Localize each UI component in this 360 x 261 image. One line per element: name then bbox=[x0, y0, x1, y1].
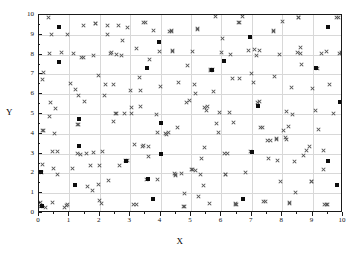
y-axis-label: Y bbox=[6, 107, 13, 117]
data-point-cross bbox=[132, 142, 137, 147]
data-point-cross bbox=[286, 124, 291, 129]
data-point-cross bbox=[327, 82, 332, 87]
data-point-cross bbox=[99, 201, 104, 206]
data-point-cross bbox=[114, 111, 119, 116]
x-axis-tick-label: 9 bbox=[310, 216, 314, 224]
data-point-cross bbox=[103, 82, 108, 87]
data-point-cross bbox=[155, 177, 160, 182]
data-point-cross bbox=[154, 112, 159, 117]
data-point-cross bbox=[111, 82, 116, 87]
x-axis-tick-label: 6 bbox=[219, 216, 223, 224]
x-axis-tick-label: 3 bbox=[127, 216, 131, 224]
data-point-cross bbox=[201, 183, 206, 188]
data-point-dot bbox=[40, 204, 44, 208]
data-point-cross bbox=[207, 201, 212, 206]
data-point-cross bbox=[213, 14, 218, 19]
x-axis-minor-tick bbox=[205, 212, 206, 214]
y-axis-tick-label: 3 bbox=[14, 149, 34, 157]
data-point-cross bbox=[93, 21, 98, 26]
data-point-cross bbox=[275, 158, 280, 163]
gridline-vertical bbox=[69, 15, 70, 211]
data-point-cross bbox=[55, 172, 60, 177]
data-point-cross bbox=[299, 62, 304, 67]
y-axis-minor-tick bbox=[38, 143, 40, 144]
gridline-horizontal bbox=[39, 134, 341, 135]
data-point-cross bbox=[53, 106, 58, 111]
data-point-cross bbox=[146, 144, 151, 149]
data-point-cross bbox=[266, 156, 271, 161]
data-point-cross bbox=[193, 168, 198, 173]
y-axis-minor-tick bbox=[38, 202, 40, 203]
gridline-horizontal bbox=[39, 114, 341, 115]
data-point-cross bbox=[336, 15, 341, 20]
data-point-cross bbox=[48, 100, 53, 105]
data-point-cross bbox=[251, 80, 256, 85]
y-axis-tick bbox=[38, 113, 42, 114]
gridline-vertical bbox=[191, 15, 192, 211]
x-axis-tick-label: 1 bbox=[67, 216, 71, 224]
y-axis-tick-label: 7 bbox=[14, 69, 34, 77]
data-point-dot bbox=[77, 117, 81, 121]
data-point-cross bbox=[141, 20, 146, 25]
data-point-cross bbox=[128, 88, 133, 93]
data-point-cross bbox=[151, 28, 156, 33]
data-point-cross bbox=[298, 45, 303, 50]
y-axis-tick-label: 8 bbox=[14, 50, 34, 58]
x-axis-minor-tick bbox=[236, 212, 237, 214]
data-point-cross bbox=[263, 199, 268, 204]
data-point-dot bbox=[250, 150, 254, 154]
data-point-cross bbox=[138, 104, 143, 109]
data-point-dot bbox=[326, 159, 330, 163]
y-axis-tick-label: 2 bbox=[14, 168, 34, 176]
data-point-cross bbox=[298, 51, 303, 56]
y-axis-tick bbox=[38, 93, 42, 94]
data-point-cross bbox=[155, 130, 160, 135]
data-point-cross bbox=[331, 111, 336, 116]
data-point-cross bbox=[257, 99, 262, 104]
data-point-cross bbox=[170, 48, 175, 53]
data-point-cross bbox=[237, 76, 242, 81]
data-point-cross bbox=[105, 32, 110, 37]
data-point-dot bbox=[256, 104, 260, 108]
data-point-cross bbox=[192, 82, 197, 87]
data-point-cross bbox=[169, 28, 174, 33]
data-point-cross bbox=[284, 137, 289, 142]
data-point-cross bbox=[47, 51, 52, 56]
data-point-cross bbox=[122, 111, 127, 116]
x-axis-label: X bbox=[0, 236, 360, 246]
data-point-cross bbox=[196, 194, 201, 199]
data-point-dot bbox=[151, 197, 155, 201]
data-point-cross bbox=[296, 15, 301, 20]
data-point-cross bbox=[233, 202, 238, 207]
y-axis-tick bbox=[38, 14, 42, 15]
data-point-cross bbox=[129, 111, 134, 116]
y-axis-tick bbox=[38, 54, 42, 55]
data-point-cross bbox=[228, 52, 233, 57]
y-axis-minor-tick bbox=[38, 83, 40, 84]
y-axis-tick-label: 0 bbox=[14, 208, 34, 216]
data-point-cross bbox=[166, 130, 171, 135]
data-point-cross bbox=[146, 154, 151, 159]
data-point-cross bbox=[173, 172, 178, 177]
data-point-cross bbox=[129, 105, 134, 110]
data-point-cross bbox=[290, 112, 295, 117]
data-point-cross bbox=[70, 166, 75, 171]
data-point-cross bbox=[339, 50, 342, 55]
data-point-cross bbox=[88, 163, 93, 168]
y-axis-tick bbox=[38, 212, 42, 213]
data-point-cross bbox=[257, 48, 262, 53]
data-point-dot bbox=[248, 35, 252, 39]
data-point-cross bbox=[249, 71, 254, 76]
data-point-cross bbox=[307, 144, 312, 149]
data-point-cross bbox=[280, 19, 285, 24]
data-point-cross bbox=[100, 149, 105, 154]
data-point-dot bbox=[146, 177, 150, 181]
y-axis-tick-label: 4 bbox=[14, 129, 34, 137]
data-point-cross bbox=[147, 57, 152, 62]
data-point-cross bbox=[284, 109, 289, 114]
data-point-cross bbox=[193, 91, 198, 96]
data-point-cross bbox=[90, 188, 95, 193]
data-point-cross bbox=[182, 204, 187, 209]
data-point-cross bbox=[75, 151, 80, 156]
data-point-dot bbox=[210, 68, 214, 72]
